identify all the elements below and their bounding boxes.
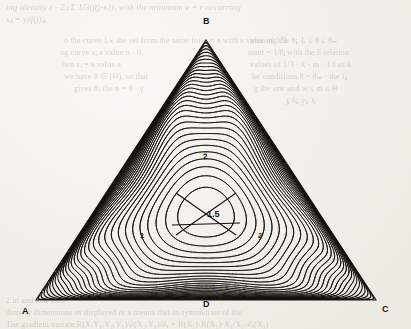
scanned-page: ing identity r - Σⱼⱼ Σ 1/3(f(j-n)), with… xyxy=(0,0,411,329)
vertex-label-C: C xyxy=(382,305,389,314)
contour-figure: B A C D 1.5 2 2 2 xyxy=(0,0,411,329)
contour-plot-svg xyxy=(0,0,411,329)
triangle-boundary xyxy=(36,40,376,300)
contour-lines-group xyxy=(38,43,373,300)
vertex-label-B: B xyxy=(203,17,210,26)
vertex-label-D: D xyxy=(203,300,210,309)
vertex-label-A: A xyxy=(22,307,29,316)
contour-label-saddle: 1.5 xyxy=(207,210,220,219)
contour-label-eye-top: 2 xyxy=(203,153,208,161)
